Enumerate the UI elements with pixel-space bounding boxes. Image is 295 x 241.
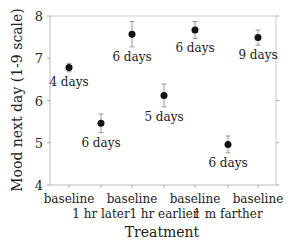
y-tick-label: 5 (35, 136, 43, 151)
x-tick-label: baseline (233, 192, 284, 206)
data-point: 4 days (49, 63, 88, 88)
x-tick-label: 1 m farther (193, 207, 263, 221)
point-marker (66, 64, 73, 71)
point-annotation: 5 days (144, 110, 183, 124)
chart: 45678 baseline1 hr laterbaseline1 hr ear… (0, 0, 295, 241)
point-annotation: 6 days (112, 50, 151, 64)
point-annotation: 6 days (175, 41, 214, 55)
point-annotation: 6 days (208, 156, 247, 170)
data-point: 6 days (112, 21, 151, 63)
x-tick-label: 1 hr earlier (129, 207, 198, 221)
x-axis: baseline1 hr laterbaseline1 hr earlierba… (44, 185, 284, 221)
y-tick-label: 7 (35, 51, 43, 66)
y-tick-label: 6 (35, 94, 43, 109)
x-tick-label: 1 hr later (72, 207, 130, 221)
y-tick-label: 8 (35, 9, 43, 24)
point-annotation: 4 days (49, 75, 88, 89)
y-tick-label: 4 (35, 178, 43, 193)
point-annotation: 6 days (81, 136, 120, 150)
data-points: 4 days6 days6 days5 days6 days6 days9 da… (49, 21, 277, 169)
y-axis-label: Mood next day (1-9 scale) (9, 8, 25, 192)
point-marker (129, 31, 136, 38)
point-annotation: 9 days (238, 48, 277, 62)
point-marker (225, 141, 232, 148)
point-marker (161, 92, 168, 99)
x-axis-label: Treatment (125, 224, 200, 240)
x-tick-label: baseline (44, 192, 95, 206)
data-point: 6 days (175, 21, 214, 55)
point-marker (98, 120, 105, 127)
data-point: 5 days (144, 84, 183, 124)
x-tick-label: baseline (170, 192, 221, 206)
data-point: 9 days (238, 30, 277, 62)
point-marker (255, 34, 262, 41)
data-point: 6 days (81, 114, 120, 150)
data-point: 6 days (208, 136, 247, 170)
x-tick-label: baseline (107, 192, 158, 206)
point-marker (192, 26, 199, 33)
